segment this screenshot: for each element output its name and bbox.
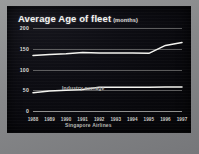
chart-title-text: Average Age of fleet bbox=[18, 13, 111, 24]
x-tick-label-1994: 1994 bbox=[127, 117, 138, 122]
series-line-industry-average bbox=[33, 43, 182, 56]
x-tick-label-1990: 1990 bbox=[61, 117, 72, 122]
x-tick-label-1991: 1991 bbox=[77, 117, 88, 122]
x-tick-label-1993: 1993 bbox=[110, 117, 121, 122]
x-tick-label-1992: 1992 bbox=[94, 117, 105, 122]
y-tick-label-150: 150 bbox=[20, 46, 29, 52]
series-lines bbox=[33, 28, 182, 111]
x-tick-label-1989: 1989 bbox=[44, 117, 55, 122]
slide-frame: Average Age of fleet(months) 05010015020… bbox=[0, 0, 199, 154]
y-tick-label-100: 100 bbox=[20, 67, 29, 73]
chart-panel: Average Age of fleet(months) 05010015020… bbox=[7, 6, 191, 133]
series-line-singapore-airlines bbox=[33, 87, 182, 93]
x-axis-labels: 1988198919901991199219931994199519961997 bbox=[33, 112, 182, 124]
y-tick-label-200: 200 bbox=[20, 25, 29, 31]
chart-subtitle-text: (months) bbox=[113, 17, 138, 23]
series-label-industry-average: Industry average bbox=[62, 85, 104, 91]
x-tick-label-1996: 1996 bbox=[160, 117, 171, 122]
y-tick-label-0: 0 bbox=[26, 108, 29, 114]
x-tick-label-1997: 1997 bbox=[177, 117, 188, 122]
x-tick-label-1995: 1995 bbox=[144, 117, 155, 122]
y-tick-label-50: 50 bbox=[23, 87, 29, 93]
x-tick-label-1988: 1988 bbox=[28, 117, 39, 122]
chart-title: Average Age of fleet(months) bbox=[18, 13, 138, 24]
plot-area: 050100150200 Industry average Singapore … bbox=[33, 28, 182, 111]
